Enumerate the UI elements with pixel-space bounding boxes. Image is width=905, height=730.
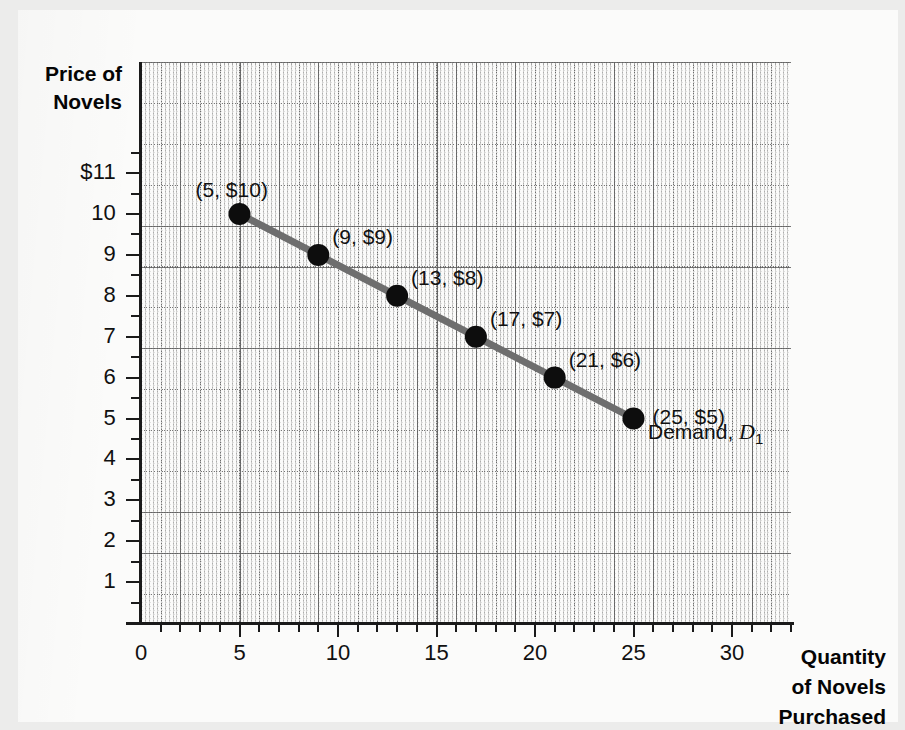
demand-data-point: [465, 326, 487, 348]
data-point-label: (17, $7): [490, 307, 562, 331]
data-point-label: (13, $8): [411, 266, 483, 290]
data-point-label: (5, $10): [196, 178, 268, 202]
demand-label-symbol: D: [739, 419, 755, 444]
demand-data-point: [307, 244, 329, 266]
demand-data-point: [386, 285, 408, 307]
data-point-label: (9, $9): [332, 225, 393, 249]
demand-line: [240, 214, 634, 419]
demand-curve-label: Demand, D1: [648, 419, 763, 447]
demand-label-subscript: 1: [755, 430, 763, 447]
demand-data-point: [229, 203, 251, 225]
demand-data-point: [623, 408, 645, 430]
demand-label-prefix: Demand,: [648, 420, 739, 443]
demand-data-point: [544, 367, 566, 389]
data-point-label: (21, $6): [569, 348, 641, 372]
demand-series: [0, 0, 905, 730]
figure-container: 12345678910$11 051015202530 Price of Nov…: [0, 0, 905, 730]
